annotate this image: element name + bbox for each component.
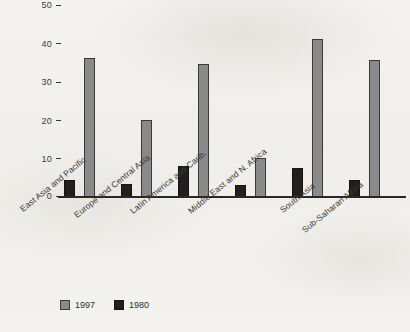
plot-area xyxy=(62,4,404,197)
bar-1997-south-asia xyxy=(312,39,323,197)
black-swatch-icon xyxy=(114,300,124,310)
y-axis-tick-label-50: 50 xyxy=(28,0,52,10)
bar-1997-east-asia-and-pacific xyxy=(84,58,95,197)
bar-1997-middle-east-and-n-africa xyxy=(255,158,266,197)
chart-legend: 1997 1980 xyxy=(60,300,159,310)
bar-group-sub-saharan-africa xyxy=(349,4,404,197)
legend-label-1980: 1980 xyxy=(129,300,149,310)
y-axis-tick-label-20: 20 xyxy=(28,116,52,126)
bar-1980-east-asia-and-pacific xyxy=(64,180,75,197)
y-tick-10 xyxy=(56,158,61,159)
bar-1980-europe-and-central-asia xyxy=(121,184,132,198)
y-tick-30 xyxy=(56,82,61,83)
y-tick-20 xyxy=(56,120,61,121)
legend-entry-1997: 1997 xyxy=(60,300,95,310)
bar-chart: 50 40 30 20 10 0 xyxy=(0,0,410,332)
bar-1997-sub-saharan-africa xyxy=(369,60,380,197)
y-axis-tick-label-30: 30 xyxy=(28,77,52,87)
y-tick-40 xyxy=(56,43,61,44)
legend-label-1997: 1997 xyxy=(75,300,95,310)
y-tick-50 xyxy=(56,5,61,6)
legend-entry-1980: 1980 xyxy=(114,300,149,310)
y-axis-tick-label-10: 10 xyxy=(28,154,52,164)
bar-1997-latin-america-and-carib xyxy=(198,64,209,197)
bar-group-south-asia xyxy=(292,4,347,197)
y-axis-tick-label-40: 40 xyxy=(28,39,52,49)
gray-swatch-icon xyxy=(60,300,70,310)
